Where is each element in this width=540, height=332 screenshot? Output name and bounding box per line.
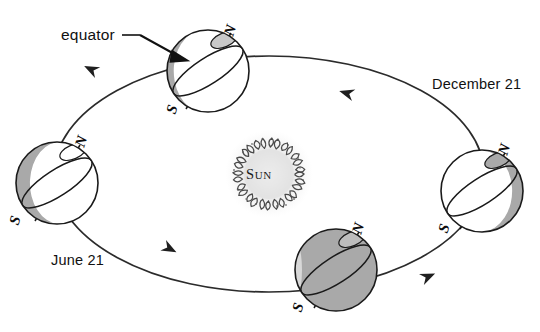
sun-label: SUN	[246, 166, 272, 183]
earth-globe-left	[16, 140, 99, 224]
sun-label-cap: S	[246, 166, 255, 182]
earth-globe-bottom	[254, 227, 377, 311]
june-21-label: June 21	[51, 252, 104, 268]
sun-label-rest: UN	[255, 169, 272, 181]
seasons-diagram-figure: equator December 21 June 21 SUN N S N S …	[0, 0, 540, 332]
december-21-label: December 21	[432, 76, 521, 92]
equator-label: equator	[61, 26, 115, 44]
earth-globe-right	[441, 148, 524, 232]
earth-globe-top	[167, 28, 250, 112]
